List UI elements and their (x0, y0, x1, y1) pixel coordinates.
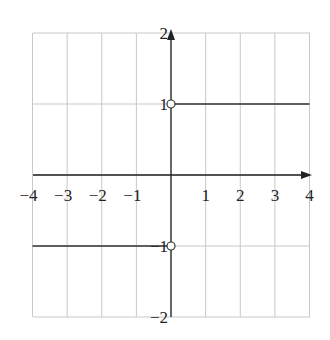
axes (33, 29, 312, 317)
step-function-chart: −4−3−2−1123421−1−2 (0, 0, 330, 340)
x-tick-label: −3 (54, 186, 72, 205)
x-tick-label: 4 (305, 186, 314, 205)
y-tick-label: 1 (160, 95, 169, 114)
x-axis-arrow-icon (301, 171, 312, 179)
open-point-marker (167, 242, 175, 250)
x-tick-label: 1 (201, 186, 210, 205)
open-point-marker (167, 100, 175, 108)
x-tick-label: −1 (123, 186, 141, 205)
y-tick-label: −1 (150, 237, 168, 256)
y-axis-arrow-icon (167, 29, 175, 40)
x-tick-label: 3 (271, 186, 280, 205)
y-tick-label: 2 (160, 24, 169, 43)
x-tick-label: 2 (236, 186, 245, 205)
x-tick-label: −4 (19, 186, 38, 205)
x-tick-label: −2 (89, 186, 107, 205)
y-tick-label: −2 (150, 308, 168, 327)
